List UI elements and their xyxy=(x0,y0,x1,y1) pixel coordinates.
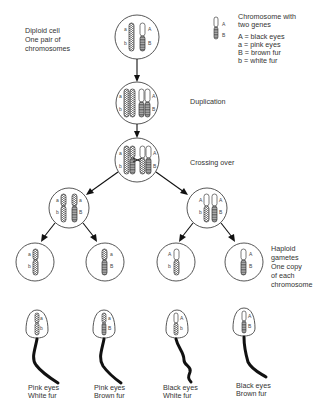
gene-label: b xyxy=(180,325,183,331)
gene-label: a xyxy=(124,26,127,32)
gene-label: a xyxy=(108,315,111,321)
gene-label: b xyxy=(168,263,171,269)
gene-label: a xyxy=(56,197,59,203)
chromatid xyxy=(130,146,135,158)
chromosome-paternal-top xyxy=(140,23,145,36)
gene-label: b xyxy=(119,163,122,169)
chromosome-paternal-bottom xyxy=(140,36,145,51)
arrow-right xyxy=(156,172,188,195)
gene-label: b xyxy=(119,106,122,112)
crossing-over-label: Crossing over xyxy=(190,158,235,167)
chromatid xyxy=(145,102,150,117)
sperm-4: A B Black eyes Brown fur xyxy=(233,308,273,398)
sperm-2: a B Pink eyes Brown fur xyxy=(93,310,127,400)
chromosome xyxy=(174,323,178,335)
chromatid xyxy=(212,206,217,222)
chromosome xyxy=(33,260,38,275)
chromosome xyxy=(174,249,179,260)
arrow-down-right xyxy=(221,223,235,242)
gamete-cell-4: A B xyxy=(225,243,263,281)
duplication-label: Duplication xyxy=(190,97,226,106)
gamete-cell-1: a b xyxy=(16,243,54,281)
sperm-tail xyxy=(34,339,58,383)
chromatid xyxy=(212,194,217,206)
chromosome xyxy=(102,249,107,260)
gene-label: a xyxy=(110,251,113,257)
gene-label: b xyxy=(124,40,127,46)
chromosome xyxy=(241,249,246,260)
chromosome xyxy=(174,260,179,275)
gamete-cell-2: a B xyxy=(86,243,124,281)
gamete-cell-3: A b xyxy=(157,243,195,281)
chromosome xyxy=(102,323,106,335)
legend: A B Chromosome with two genes A = black … xyxy=(214,12,298,65)
chromatid xyxy=(140,158,145,174)
chromosome xyxy=(241,260,246,275)
chromatid xyxy=(139,89,144,102)
arrow-down-right xyxy=(83,223,97,242)
legend-gene-B: B xyxy=(222,32,226,38)
legend-chromosome-icon xyxy=(214,17,218,39)
gene-label: a xyxy=(28,251,31,257)
gene-label: a xyxy=(119,150,122,156)
gene-label: b xyxy=(40,325,43,331)
chromatid xyxy=(145,89,150,102)
chromatid xyxy=(130,158,135,174)
arrow-down-left xyxy=(179,223,193,242)
chromatid xyxy=(146,146,151,158)
chromatid xyxy=(72,206,77,222)
legend-gene-A: A xyxy=(222,21,226,27)
chromosome xyxy=(35,323,39,335)
gene-label: a xyxy=(119,93,122,99)
sperm-3: A b Black eyes White fur xyxy=(163,310,200,400)
chromatid xyxy=(146,158,151,174)
crossing-over-cell: a b A B xyxy=(115,138,159,182)
diploid-label: Diploid cell One pair of chromosomes xyxy=(25,26,71,53)
chromosome xyxy=(33,249,38,260)
gene-label: b xyxy=(199,209,202,215)
chromosome xyxy=(102,260,107,275)
gene-label: b xyxy=(56,209,59,215)
chromosome xyxy=(242,321,246,333)
chromatid xyxy=(124,89,129,117)
sperm-1-caption: Pink eyes White fur xyxy=(28,383,61,400)
chromosome xyxy=(242,311,246,321)
chromosome xyxy=(35,313,39,323)
sperm-4-caption: Black eyes Brown fur xyxy=(236,381,273,398)
chromatid xyxy=(130,89,135,117)
left-daughter-cell: a b a B xyxy=(49,188,89,228)
sperm-1: a b Pink eyes White fur xyxy=(26,310,61,400)
chromatid xyxy=(140,146,145,158)
diploid-cell: a b A B xyxy=(115,15,159,59)
chromatid xyxy=(61,194,66,206)
chromatid xyxy=(61,206,66,222)
arrow-down xyxy=(134,124,140,138)
chromosome xyxy=(102,313,106,323)
gene-label: a xyxy=(40,315,43,321)
chromatid xyxy=(139,102,144,117)
sperm-tail xyxy=(176,339,191,382)
sperm-tail xyxy=(101,339,121,383)
sperm-2-caption: Pink eyes Brown fur xyxy=(94,383,127,400)
sperm-tail xyxy=(244,337,266,377)
haploid-label: Haploid gametes One copy of each chromos… xyxy=(271,244,313,289)
meiosis-diagram: Diploid cell One pair of chromosomes Dup… xyxy=(0,0,327,415)
sperm-3-caption: Black eyes White fur xyxy=(163,383,200,400)
chromatid xyxy=(72,194,77,206)
chromosome-maternal xyxy=(129,23,134,51)
legend-entries: A = black eyes a = pink eyes B = brown f… xyxy=(238,32,287,65)
chromatid xyxy=(204,206,209,222)
right-daughter-cell: A b A B xyxy=(187,188,227,228)
duplication-cell: a b A B xyxy=(116,82,158,124)
gene-label: a xyxy=(79,197,82,203)
gene-label: b xyxy=(28,263,31,269)
chromosome xyxy=(174,313,178,323)
arrow-left xyxy=(86,172,118,195)
arrow-down xyxy=(134,59,140,82)
arrow-down-left xyxy=(41,223,55,242)
legend-title: Chromosome with two genes xyxy=(238,12,298,29)
chromatid xyxy=(124,146,129,174)
chromatid xyxy=(204,194,209,206)
